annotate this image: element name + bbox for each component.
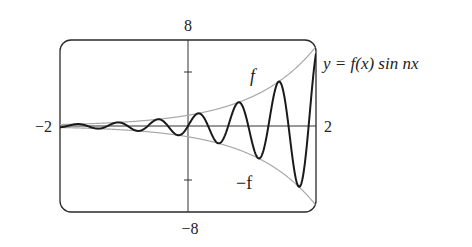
x-min-label: −2 — [35, 118, 52, 135]
plot-canvas: 8 −8 −2 2 f −f y = f(x) sin nx — [0, 0, 472, 247]
x-max-label: 2 — [324, 118, 332, 135]
y-max-label: 8 — [184, 17, 192, 34]
neg-f-label-text: −f — [236, 173, 252, 193]
f-label: f — [250, 66, 258, 86]
equation-label: y = f(x) sin nx — [321, 54, 419, 73]
neg-f-label: −f — [236, 173, 252, 193]
y-min-label: −8 — [181, 220, 198, 237]
